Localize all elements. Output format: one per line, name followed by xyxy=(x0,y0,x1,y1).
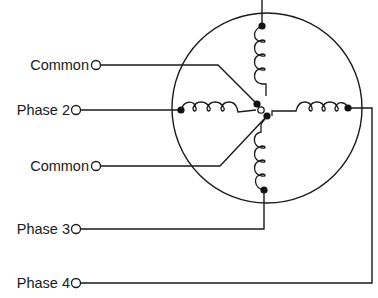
phase4-wire xyxy=(76,108,372,283)
phase4-terminal xyxy=(72,279,81,288)
center-terminal xyxy=(258,107,264,113)
phase3-wire xyxy=(76,190,264,229)
common1-wire xyxy=(96,65,257,104)
common1-label: Common xyxy=(30,57,89,73)
common2-label: Common xyxy=(30,158,89,174)
common1-terminal xyxy=(92,61,101,70)
phase2-label: Phase 2 xyxy=(17,102,70,118)
right-coil xyxy=(272,102,348,116)
phase3-label: Phase 3 xyxy=(17,221,70,237)
left-coil xyxy=(181,102,256,112)
phase4-label: Phase 4 xyxy=(17,275,70,291)
phase3-terminal xyxy=(72,225,81,234)
stepper-motor-diagram: Common Phase 2 Common Phase 3 Phase 4 xyxy=(0,0,378,298)
motor-housing-circle xyxy=(172,13,362,203)
common2-terminal xyxy=(92,162,101,171)
common2-wire xyxy=(96,116,267,166)
phase2-terminal xyxy=(72,106,81,115)
top-coil xyxy=(255,26,267,96)
